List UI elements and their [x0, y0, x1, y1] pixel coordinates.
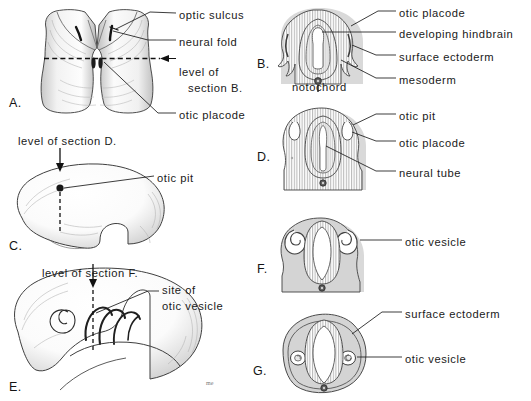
panel-letter-b: B.	[257, 57, 270, 71]
label-developing-hindbrain: developing hindbrain	[399, 28, 513, 41]
label-surface-ectoderm-g: surface ectoderm	[405, 308, 500, 321]
label-otic-placode-b: otic placode	[399, 7, 465, 20]
leader-otic-pit-d	[353, 114, 396, 125]
panel-letter-c: C.	[9, 239, 22, 253]
panel-letter-e: E.	[9, 380, 22, 394]
label-optic-sulcus: optic sulcus	[179, 9, 244, 22]
otic-pit-right-d	[342, 122, 353, 140]
label-level-of-section-d: level of section D.	[18, 135, 117, 148]
panel-e-drawing	[15, 264, 202, 390]
panel-g-drawing	[283, 314, 366, 392]
label-neural-fold: neural fold	[179, 36, 237, 49]
label-notochord-b: notochord	[292, 81, 347, 94]
notochord-f-core	[321, 287, 323, 289]
otic-pit-left-d	[289, 122, 300, 140]
label-otic-pit-d: otic pit	[399, 110, 436, 123]
panel-d-drawing	[283, 108, 366, 190]
label-surface-ectoderm-b: surface ectoderm	[399, 51, 494, 64]
panel-letter-g: G.	[253, 364, 267, 378]
label-level-of-section-f: level of section F.	[42, 267, 138, 280]
label-section-b: section B.	[188, 82, 243, 95]
mesoderm-speck-d	[291, 157, 293, 159]
panel-f-drawing	[281, 218, 364, 292]
leader-otic-placode-b	[351, 11, 396, 26]
notochord-d-core	[322, 182, 324, 184]
label-otic-pit-c: otic pit	[157, 172, 194, 185]
label-otic-vesicle-f: otic vesicle	[405, 236, 466, 249]
panel-c-drawing	[17, 148, 164, 249]
panel-letter-d: D.	[257, 150, 270, 164]
notochord-g-core	[323, 387, 325, 389]
label-level-of: level of	[179, 66, 219, 79]
neural-canal-d	[319, 126, 326, 171]
label-otic-placode-a: otic placode	[179, 109, 245, 122]
pharyngeal-arch-4	[128, 316, 139, 340]
panel-b-drawing	[278, 8, 363, 84]
panel-letter-f: F.	[257, 262, 268, 276]
embryology-figure: optic sulcus neural fold level of sectio…	[0, 0, 531, 401]
panel-letter-a: A.	[9, 96, 22, 110]
leader-surface-ectoderm-g	[352, 312, 402, 334]
otic-pit-marker-c	[56, 184, 63, 191]
panel-a-drawing	[41, 10, 176, 113]
embryo-body-c	[17, 164, 164, 248]
otic-vesicle-left-g	[291, 351, 306, 365]
label-site-of: site of	[162, 284, 196, 297]
label-neural-tube-d: neural tube	[399, 167, 461, 180]
neural-canal-b	[312, 28, 323, 69]
label-otic-vesicle-e: otic vesicle	[162, 300, 223, 313]
label-otic-vesicle-g: otic vesicle	[405, 353, 466, 366]
label-mesoderm-b: mesoderm	[399, 74, 456, 87]
label-otic-placode-d: otic placode	[399, 137, 465, 150]
tail-sweep-e	[60, 358, 126, 390]
section-b-arrowhead	[160, 55, 169, 62]
artist-signature: me	[206, 380, 213, 386]
